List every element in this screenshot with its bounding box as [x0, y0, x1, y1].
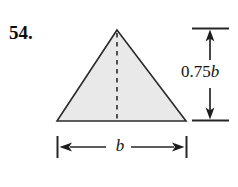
triangle-shape — [57, 30, 186, 121]
height-dimension-value: 0.75 — [181, 62, 211, 81]
figure-container: 54. 0.75b b — [0, 0, 238, 187]
height-dimension-variable: b — [211, 62, 220, 81]
base-dimension-label: b — [108, 136, 132, 156]
triangle-diagram-svg — [0, 0, 238, 187]
height-dimension-label: 0.75b — [181, 62, 238, 82]
